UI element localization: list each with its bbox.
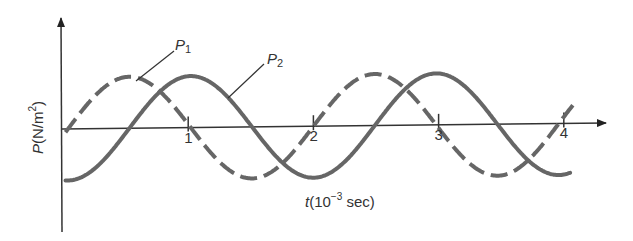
p2-label-sub: 2 [277,57,283,69]
x-tick-label-4: 4 [560,124,568,141]
y-label-suffix: ) [29,101,46,106]
x-tick-label-1: 1 [184,129,192,146]
p1-leader-line [136,51,174,81]
p2-leader-line [228,64,264,98]
x-label-suffix: sec) [342,193,375,210]
y-label-var: P [29,144,46,154]
x-label-exp: −3 [331,191,342,202]
y-axis [61,18,62,232]
p1-label-sub: 1 [185,43,191,55]
p2-label: P2 [267,50,283,69]
y-axis-label: P(N/m2) [27,101,46,154]
y-label-exp: 2 [27,106,38,112]
p1-label-main: P [175,36,185,53]
y-label-prefix: (N/m [29,112,46,145]
x-label-prefix: (10 [309,193,331,210]
x-axis-label: t(10−3 sec) [305,191,375,210]
x-axis [62,123,606,129]
p1-label: P1 [175,36,191,55]
p2-label-main: P [267,50,277,67]
x-tick-label-3: 3 [435,126,443,143]
x-tick-label-2: 2 [309,127,317,144]
